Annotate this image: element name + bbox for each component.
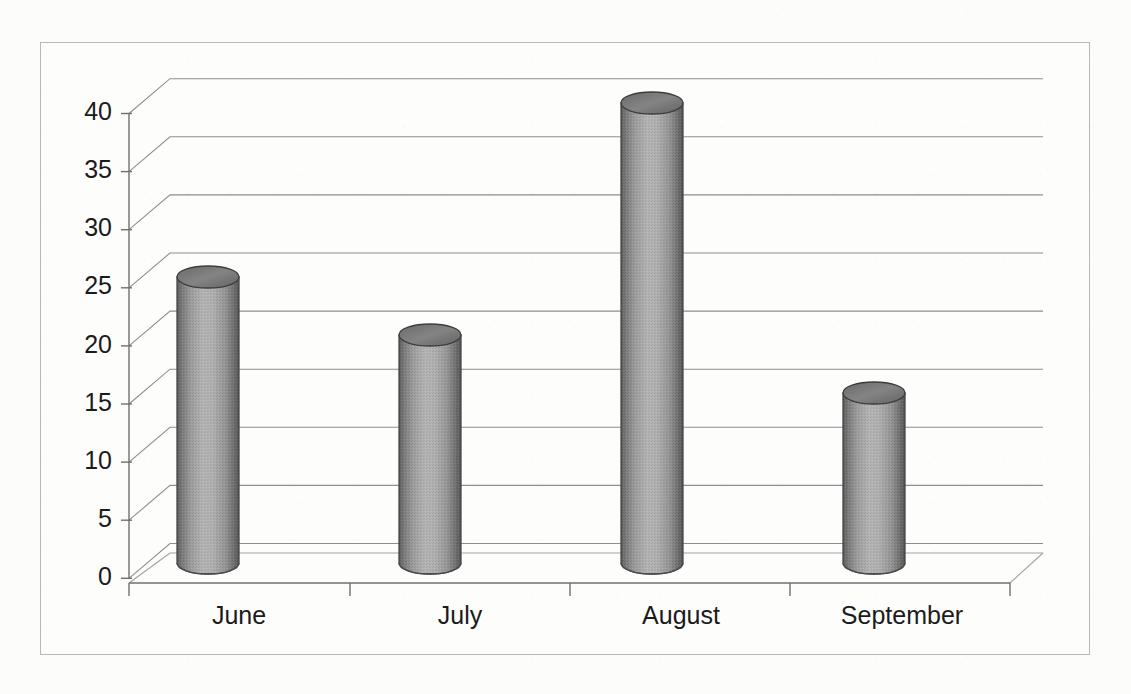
bar-august-texture: [621, 103, 683, 574]
bar-september-texture: [843, 393, 905, 574]
y-axis-tick-labels: 0 5 10 15 20 25 30 35 40: [84, 97, 112, 590]
chart-root: 0 5 10 15 20 25 30 35 40: [0, 0, 1131, 694]
y-tick-label-25: 25: [84, 271, 112, 299]
y-tick-label-0: 0: [98, 562, 112, 590]
bar-august-cap: [621, 92, 683, 114]
y-tick-label-30: 30: [84, 213, 112, 241]
x-tick-label-july: July: [438, 601, 483, 629]
bar-july[interactable]: [399, 324, 461, 574]
bar-june-cap: [177, 266, 239, 288]
bar-september[interactable]: [843, 382, 905, 574]
bar-july-texture: [399, 335, 461, 574]
x-tick-label-june: June: [212, 601, 266, 629]
bar-september-cap: [843, 382, 905, 404]
x-axis-tick-labels: June July August September: [212, 601, 963, 629]
y-tick-label-20: 20: [84, 330, 112, 358]
y-axis: [121, 114, 132, 580]
y-tick-label-5: 5: [98, 504, 112, 532]
y-tick-label-35: 35: [84, 155, 112, 183]
y-tick-label-40: 40: [84, 97, 112, 125]
x-tick-label-august: August: [642, 601, 720, 629]
bar-june[interactable]: [177, 266, 239, 574]
chart-plot-area: 0 5 10 15 20 25 30 35 40: [0, 0, 1131, 694]
y-tick-label-10: 10: [84, 446, 112, 474]
bar-august[interactable]: [621, 92, 683, 574]
gridlines: [129, 79, 1043, 579]
bar-july-cap: [399, 324, 461, 346]
chart-floor: [129, 553, 1043, 596]
x-tick-label-september: September: [841, 601, 963, 629]
bar-june-texture: [177, 277, 239, 574]
y-tick-label-15: 15: [84, 388, 112, 416]
